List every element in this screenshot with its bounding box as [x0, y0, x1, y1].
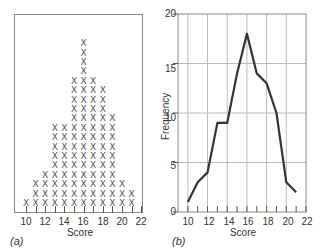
line-x-tick-18: 18 [262, 216, 273, 227]
y-tick-15: 15 [160, 63, 176, 74]
y-tick-0: 0 [160, 206, 176, 217]
line-x-tick-14: 14 [223, 216, 234, 227]
line-x-tick-22: 22 [301, 216, 312, 227]
line-x-tick-16: 16 [242, 216, 253, 227]
y-tick-20: 20 [160, 8, 176, 19]
line-x-tick-12: 12 [203, 216, 214, 227]
panel-label-b: (b) [172, 235, 185, 247]
frequency-line [188, 34, 296, 202]
y-tick-5: 5 [160, 160, 176, 171]
line-chart-x-title: Score [230, 227, 256, 238]
line-x-tick-20: 20 [282, 216, 293, 227]
line-chart-panel: 20 15 10 5 0 Frequency 10 12 14 16 18 20… [0, 0, 324, 252]
line-x-tick-10: 10 [182, 216, 193, 227]
line-chart-y-title: Frequency [160, 93, 171, 140]
